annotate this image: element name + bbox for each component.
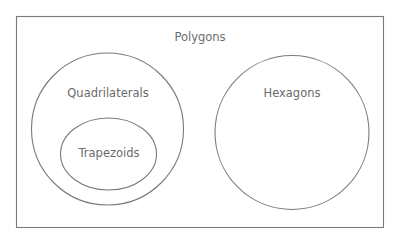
hexagons-label: Hexagons <box>264 86 321 100</box>
hexagons-circle <box>215 56 369 210</box>
polygons-venn-diagram: Polygons Quadrilaterals Trapezoids Hexag… <box>0 0 402 240</box>
trapezoids-label: Trapezoids <box>77 146 139 160</box>
polygons-label: Polygons <box>174 30 225 44</box>
quadrilaterals-circle <box>32 53 184 205</box>
quadrilaterals-label: Quadrilaterals <box>67 86 148 100</box>
